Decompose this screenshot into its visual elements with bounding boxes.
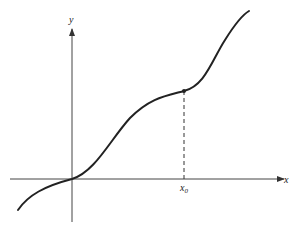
x0-label: x0 bbox=[179, 182, 188, 195]
x0-point bbox=[182, 89, 186, 93]
y-axis-label: y bbox=[68, 14, 74, 25]
graph-canvas: y x x0 bbox=[0, 0, 292, 230]
function-graph: y x x0 bbox=[0, 0, 292, 230]
x0-subscript: 0 bbox=[184, 187, 188, 195]
x-axis-label: x bbox=[283, 174, 289, 185]
function-curve bbox=[18, 11, 249, 210]
